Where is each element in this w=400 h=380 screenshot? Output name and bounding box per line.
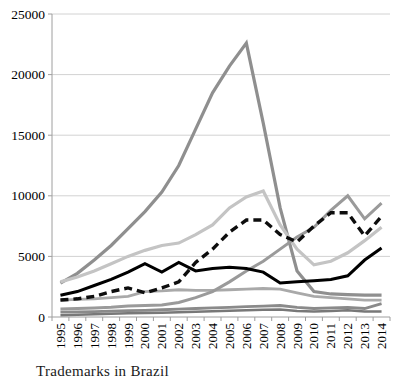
x-tick-label-2004: 2004 bbox=[205, 323, 220, 350]
series-gray-steep-peak-2006 bbox=[60, 43, 381, 295]
x-tick-label-2010: 2010 bbox=[306, 323, 321, 349]
x-tick-label-2000: 2000 bbox=[137, 323, 152, 349]
x-tick-label-2014: 2014 bbox=[374, 323, 389, 350]
x-tick-label-2005: 2005 bbox=[222, 323, 237, 349]
x-tick-label-2012: 2012 bbox=[340, 323, 355, 349]
y-tick-label: 15000 bbox=[11, 128, 45, 143]
x-tick-label-1997: 1997 bbox=[87, 323, 102, 350]
x-tick-label-2011: 2011 bbox=[323, 323, 338, 349]
x-tick-label-1996: 1996 bbox=[70, 323, 85, 350]
x-tick-label-1998: 1998 bbox=[104, 323, 119, 349]
x-tick-label-2008: 2008 bbox=[273, 323, 288, 349]
x-tick-label-2007: 2007 bbox=[256, 323, 271, 350]
x-tick-label-2009: 2009 bbox=[290, 323, 305, 349]
gridlines bbox=[52, 14, 390, 256]
axes bbox=[48, 14, 390, 321]
x-tick-label-2003: 2003 bbox=[188, 323, 203, 349]
x-tick-label-1999: 1999 bbox=[121, 323, 136, 349]
x-axis-labels: 1995199619971998199920002001200220032004… bbox=[53, 323, 389, 350]
y-tick-label: 25000 bbox=[11, 7, 45, 22]
y-tick-label: 10000 bbox=[11, 188, 45, 203]
x-tick-label-1995: 1995 bbox=[53, 323, 68, 349]
y-axis-labels: 0500010000150002000025000 bbox=[11, 7, 45, 325]
y-tick-label: 0 bbox=[38, 310, 45, 325]
x-tick-label-2002: 2002 bbox=[171, 323, 186, 349]
x-tick-label-2006: 2006 bbox=[239, 323, 254, 350]
x-tick-label-2001: 2001 bbox=[154, 323, 169, 349]
y-tick-label: 20000 bbox=[11, 67, 45, 82]
y-tick-label: 5000 bbox=[18, 249, 45, 264]
figure-caption-clipped: Trademarks in Brazil bbox=[36, 363, 169, 380]
x-tick-label-2013: 2013 bbox=[357, 323, 372, 349]
